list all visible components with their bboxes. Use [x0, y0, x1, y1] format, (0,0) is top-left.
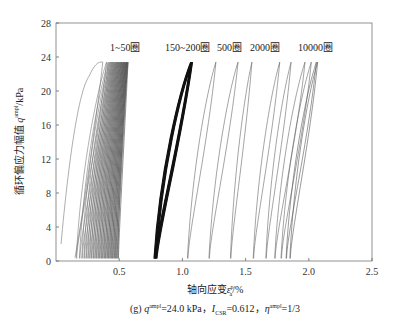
x-tick-label: 1.0	[176, 266, 189, 277]
y-tick-label: 28	[41, 18, 51, 29]
y-tick-label: 8	[46, 188, 51, 199]
figure-caption: (g) qampl=24.0 kPa，ICSR=0.612，ηampl=1/3	[100, 300, 330, 316]
chart-svg: 04812162024280.51.01.52.02.5 1~50圈150~20…	[0, 0, 398, 325]
y-tick-label: 20	[41, 86, 51, 97]
y-tick-label: 24	[41, 52, 51, 63]
y-tick-label: 12	[41, 154, 51, 165]
x-tick-label: 2.5	[366, 266, 379, 277]
x-tick-label: 1.5	[239, 266, 252, 277]
x-tick-label: 2.0	[303, 266, 316, 277]
hysteresis-curves	[61, 62, 318, 258]
cycle-label: 500圈	[217, 42, 242, 53]
cycle-label: 1~50圈	[110, 42, 140, 53]
cycle-label: 2000圈	[250, 42, 280, 53]
x-axis-label: 轴向应变εpa/%	[150, 281, 280, 297]
y-tick-label: 4	[46, 222, 51, 233]
x-tick-label: 0.5	[113, 266, 126, 277]
cycle-label: 150~200圈	[165, 42, 210, 53]
y-tick-label: 16	[41, 120, 51, 131]
y-tick-label: 0	[46, 256, 51, 267]
cycle-label: 10000圈	[298, 42, 333, 53]
cycle-annotations: 1~50圈150~200圈500圈2000圈10000圈	[110, 42, 333, 53]
y-axis-label: 循环偏应力幅值 qampl/kPa	[11, 62, 26, 222]
